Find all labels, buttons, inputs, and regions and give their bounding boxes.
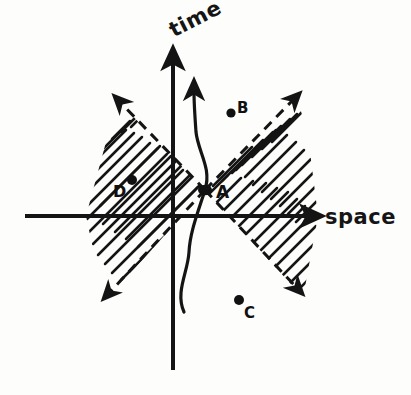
space-axis-label: space [325, 205, 396, 229]
event-label-d: D [113, 182, 126, 201]
axes-group [25, 60, 310, 370]
event-label-a: A [216, 182, 229, 202]
event-dot-A [198, 185, 212, 195]
left-cone-hatching [87, 114, 203, 286]
event-dot-B [226, 108, 235, 117]
event-dot-C [234, 295, 244, 305]
event-label-b: B [237, 99, 248, 117]
event-label-c: C [244, 304, 255, 322]
spacetime-diagram-figure: time space A B C D [0, 0, 411, 395]
diagram-canvas [0, 0, 411, 395]
event-dot-D [127, 175, 137, 185]
cone-branch-future-right [205, 100, 293, 190]
